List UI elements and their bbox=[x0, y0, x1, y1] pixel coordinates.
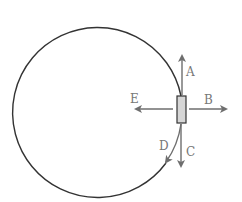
circular-motion-diagram: A B C D E bbox=[0, 0, 242, 202]
label-a: A bbox=[185, 65, 195, 79]
label-e: E bbox=[130, 92, 139, 106]
label-b: B bbox=[204, 93, 213, 107]
label-c: C bbox=[186, 145, 195, 159]
label-d: D bbox=[159, 139, 169, 153]
moving-block bbox=[177, 96, 186, 123]
circular-path bbox=[13, 28, 181, 198]
